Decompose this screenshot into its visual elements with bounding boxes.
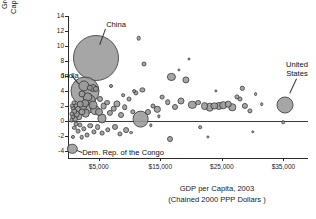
y-tick-mark: [65, 61, 68, 62]
bubble-point: [142, 61, 147, 66]
bubble-point: [97, 96, 103, 102]
y-axis-title: Growth of Real GDP per Capita, Average 1…: [2, 0, 26, 40]
bubble-point: [71, 135, 75, 139]
bubble-point: [207, 135, 210, 138]
x-tick-label: $25,000: [210, 163, 234, 170]
bubble-point: [157, 114, 160, 117]
bubble-point: [91, 129, 96, 134]
bubble-point: [183, 76, 190, 83]
bubble-point: [149, 123, 152, 126]
y-tick-label: 8: [60, 58, 64, 65]
bubble-point: [240, 86, 244, 90]
bubble-point: [140, 87, 145, 92]
bubble-point: [201, 103, 209, 111]
bubble-point: [126, 96, 131, 101]
x-tick-mark: [283, 158, 284, 161]
bubble-point: [247, 108, 252, 113]
plot-area: -4-202468101214 $5,000$15,000$25,000$35,…: [68, 16, 308, 158]
bubble-point: [87, 123, 93, 129]
bubble-point: [123, 127, 129, 133]
y-tick-mark: [65, 106, 68, 107]
annotation-dem-rep-of-the-congo: Dem. Rep. of the Congo: [82, 148, 164, 157]
bubble-point: [199, 126, 203, 130]
bubble-point: [69, 117, 74, 122]
y-tick-label: 10: [57, 43, 64, 50]
x-tick-label: $35,000: [272, 163, 296, 170]
bubble-point: [79, 135, 84, 140]
y-tick-label: 2: [60, 102, 64, 109]
bubble-point: [160, 95, 165, 100]
x-tick-mark: [99, 158, 100, 161]
y-tick-mark: [65, 91, 68, 92]
y-tick-mark: [65, 46, 68, 47]
bubble-point: [237, 96, 242, 101]
bubble-point: [282, 120, 286, 124]
x-tick-label: $15,000: [149, 163, 173, 170]
bubble-point: [167, 73, 175, 81]
y-tick-mark: [65, 121, 68, 122]
bubble-point: [85, 132, 90, 137]
y-tick-label: 0: [60, 117, 64, 124]
bubble-point: [154, 106, 160, 112]
x-axis-title: GDP per Capita, 2003 (Chained 2000 PPP D…: [118, 184, 316, 205]
bubble-point: [150, 103, 155, 108]
y-tick-label: 12: [57, 28, 64, 35]
bubble-point: [70, 103, 75, 108]
bubble-dem-rep-of-the-congo: [67, 144, 77, 154]
bubble-point: [177, 68, 180, 71]
x-tick-mark: [222, 158, 223, 161]
x-tick-mark: [160, 158, 161, 161]
bubble-point: [129, 131, 133, 135]
bubble-point: [225, 101, 232, 108]
y-tick-mark: [65, 16, 68, 17]
x-axis-title-line2: (Chained 2000 PPP Dollars ): [118, 195, 316, 206]
bubble-point: [105, 127, 110, 132]
x-axis-line: [68, 158, 308, 159]
bubble-point: [107, 110, 113, 116]
bubble-point: [79, 90, 86, 97]
bubble-point: [214, 89, 217, 92]
bubble-chart: Growth of Real GDP per Capita, Average 1…: [0, 0, 316, 219]
bubble-point: [178, 98, 185, 105]
y-tick-label: 14: [57, 13, 64, 20]
bubble-point: [136, 36, 141, 41]
bubble-point: [260, 102, 264, 106]
y-tick-label: 4: [60, 87, 64, 94]
bubble-point: [167, 136, 173, 142]
y-axis-line: [68, 16, 69, 158]
y-axis-title-line1: Growth of Real GDP per: [0, 0, 9, 9]
x-tick-label: $5,000: [89, 163, 109, 170]
bubble-point: [75, 129, 80, 134]
x-axis-title-line1: GDP per Capita, 2003: [118, 184, 316, 195]
bubble-point: [172, 104, 178, 110]
bubble-point: [112, 124, 118, 130]
annotation-leader-line: [289, 78, 297, 93]
y-tick-label: -2: [58, 132, 64, 139]
bubble-point: [251, 130, 254, 133]
bubble-point: [196, 100, 202, 106]
bubble-point: [133, 89, 137, 93]
annotation-china: China: [106, 20, 126, 29]
bubble-point: [254, 93, 258, 97]
bubble-point: [81, 126, 86, 131]
bubble-point: [100, 131, 105, 136]
bubble-point: [165, 99, 171, 105]
bubble-point: [122, 104, 128, 110]
y-tick-label: -4: [58, 147, 64, 154]
y-tick-mark: [65, 136, 68, 137]
bubble-point: [109, 84, 113, 88]
y-axis-title-line2: Capita, Average 1980-2003: [9, 0, 18, 14]
bubble-point: [118, 131, 123, 136]
y-tick-mark: [65, 31, 68, 32]
bubble-china: [73, 35, 119, 81]
bubble-united-states: [276, 96, 293, 113]
annotation-india: India: [62, 71, 78, 80]
bubble-point: [104, 100, 110, 106]
bubble-point: [118, 112, 124, 118]
bubble-point: [122, 93, 126, 97]
annotation-united-states: United States: [277, 60, 316, 79]
bubble-point: [187, 58, 190, 61]
bubble-point: [145, 109, 151, 115]
